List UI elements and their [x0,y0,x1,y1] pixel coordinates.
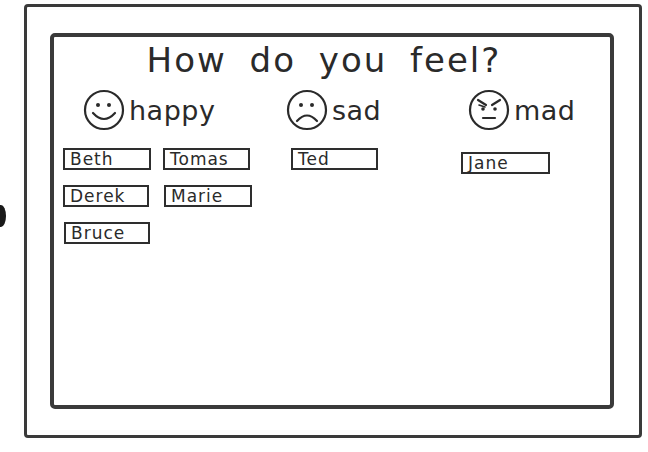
mad-face-icon [467,88,511,132]
mood-header-mad: mad [467,88,576,132]
name-tag[interactable]: Marie [164,185,252,207]
edge-marker [0,205,6,227]
name-tag[interactable]: Derek [63,185,149,207]
mood-label-happy: happy [129,95,215,126]
name-tag[interactable]: Jane [461,152,550,174]
name-tag[interactable]: Bruce [64,222,150,244]
mood-label-mad: mad [514,95,576,126]
sad-face-icon [285,88,329,132]
happy-face-icon [82,88,126,132]
name-tag[interactable]: Beth [63,148,151,170]
name-tag[interactable]: Ted [291,148,378,170]
name-tag[interactable]: Tomas [163,148,250,170]
page-title: How do you feel? [0,40,648,80]
mood-header-sad: sad [285,88,381,132]
mood-header-happy: happy [82,88,215,132]
mood-label-sad: sad [332,95,381,126]
